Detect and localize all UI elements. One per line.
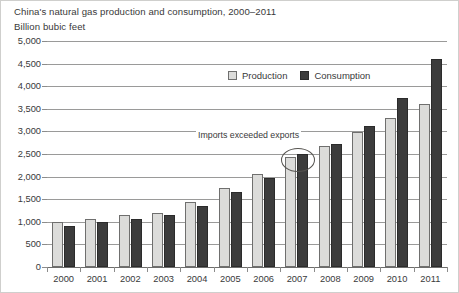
y-axis-tick-label: 5,000 bbox=[18, 36, 41, 46]
y-axis-tick-label: 500 bbox=[25, 239, 41, 249]
y-axis-tick-label: 1,500 bbox=[18, 194, 41, 204]
bar-production bbox=[52, 222, 63, 267]
bar-consumption bbox=[97, 222, 108, 267]
x-axis-tick-label: 2003 bbox=[153, 274, 174, 284]
x-axis-tick-mark bbox=[380, 267, 381, 272]
bar-consumption bbox=[364, 126, 375, 267]
chart-subtitle: Billion bubic feet bbox=[14, 21, 85, 32]
bar-group bbox=[52, 41, 85, 267]
bar-group bbox=[385, 41, 418, 267]
y-axis-tick-mark bbox=[42, 64, 47, 65]
x-axis-tick-label: 2000 bbox=[53, 274, 74, 284]
y-axis-tick-label: 4,000 bbox=[18, 81, 41, 91]
bar-production bbox=[152, 213, 163, 267]
bar-consumption bbox=[164, 215, 175, 267]
bar-production bbox=[319, 146, 330, 267]
x-axis-tick-label: 2001 bbox=[87, 274, 108, 284]
bar-consumption bbox=[431, 59, 442, 267]
x-axis-tick-mark bbox=[347, 267, 348, 272]
x-axis-tick-label: 2010 bbox=[387, 274, 408, 284]
x-axis-tick-labels: 2000200120022003200420052006200720082009… bbox=[47, 274, 447, 288]
chart-legend: Production Consumption bbox=[224, 68, 374, 83]
chart-title: China's natural gas production and consu… bbox=[14, 6, 276, 17]
y-axis-tick-labels: 05001,0001,5002,0002,5003,0003,5004,0004… bbox=[0, 41, 41, 267]
x-axis-tick-mark bbox=[447, 267, 448, 272]
bar-group bbox=[185, 41, 218, 267]
x-axis-tick-label: 2004 bbox=[187, 274, 208, 284]
x-axis-tick-mark bbox=[314, 267, 315, 272]
x-axis-tick-mark bbox=[47, 267, 48, 272]
y-axis-tick-mark bbox=[42, 267, 47, 268]
bar-production bbox=[252, 174, 263, 267]
y-axis-tick-mark bbox=[42, 109, 47, 110]
legend-swatch-production-icon bbox=[228, 71, 237, 80]
y-axis-tick-label: 4,500 bbox=[18, 59, 41, 69]
legend-label-production: Production bbox=[242, 70, 287, 81]
bar-consumption bbox=[231, 192, 242, 267]
x-axis-tick-label: 2011 bbox=[420, 274, 440, 284]
x-axis-tick-label: 2006 bbox=[253, 274, 274, 284]
legend-swatch-consumption-icon bbox=[300, 71, 309, 80]
bar-production bbox=[419, 104, 430, 267]
bar-production bbox=[185, 202, 196, 267]
bar-production bbox=[385, 118, 396, 267]
x-axis-tick-mark bbox=[180, 267, 181, 272]
bar-consumption bbox=[297, 154, 308, 267]
bar-consumption bbox=[397, 98, 408, 268]
bar-production bbox=[285, 157, 296, 267]
bar-production bbox=[352, 132, 363, 267]
bar-group bbox=[152, 41, 185, 267]
y-axis-tick-mark bbox=[42, 177, 47, 178]
y-axis-tick-label: 2,000 bbox=[18, 172, 41, 182]
y-axis-tick-label: 1,000 bbox=[18, 217, 41, 227]
bar-production bbox=[219, 188, 230, 267]
x-axis-tick-mark bbox=[80, 267, 81, 272]
x-axis-tick-label: 2008 bbox=[320, 274, 341, 284]
y-axis-tick-label: 3,500 bbox=[18, 104, 41, 114]
y-axis-tick-label: 2,500 bbox=[18, 149, 41, 159]
legend-label-consumption: Consumption bbox=[314, 70, 370, 81]
x-axis-tick-mark bbox=[114, 267, 115, 272]
x-axis-tick-mark bbox=[214, 267, 215, 272]
y-axis-tick-mark bbox=[42, 222, 47, 223]
bar-group bbox=[85, 41, 118, 267]
y-axis-tick-mark bbox=[42, 199, 47, 200]
y-axis-tick-mark bbox=[42, 86, 47, 87]
y-axis-tick-mark bbox=[42, 131, 47, 132]
annotation-label-imports-exceeded-exports: Imports exceeded exports bbox=[196, 130, 301, 140]
y-axis-tick-mark bbox=[42, 154, 47, 155]
legend-item-production: Production bbox=[228, 70, 287, 81]
chart-figure: China's natural gas production and consu… bbox=[0, 0, 459, 293]
y-axis-tick-mark bbox=[42, 244, 47, 245]
x-axis-tick-mark bbox=[280, 267, 281, 272]
bar-production bbox=[119, 215, 130, 267]
x-axis-tick-mark bbox=[147, 267, 148, 272]
x-axis-tick-mark bbox=[414, 267, 415, 272]
x-axis-tick-label: 2002 bbox=[120, 274, 141, 284]
x-axis-tick-mark bbox=[247, 267, 248, 272]
bar-group bbox=[119, 41, 152, 267]
bar-consumption bbox=[264, 178, 275, 267]
y-axis-tick-label: 0 bbox=[36, 262, 41, 272]
x-axis-tick-label: 2007 bbox=[287, 274, 308, 284]
legend-item-consumption: Consumption bbox=[300, 70, 370, 81]
bar-consumption bbox=[331, 144, 342, 267]
x-axis-tick-label: 2009 bbox=[353, 274, 374, 284]
bar-consumption bbox=[197, 206, 208, 267]
bar-production bbox=[85, 219, 96, 267]
bar-consumption bbox=[131, 219, 142, 267]
bar-group bbox=[419, 41, 452, 267]
x-axis-tick-label: 2005 bbox=[220, 274, 241, 284]
y-axis-tick-label: 3,000 bbox=[18, 126, 41, 136]
bar-consumption bbox=[64, 226, 75, 267]
y-axis-tick-mark bbox=[42, 41, 47, 42]
